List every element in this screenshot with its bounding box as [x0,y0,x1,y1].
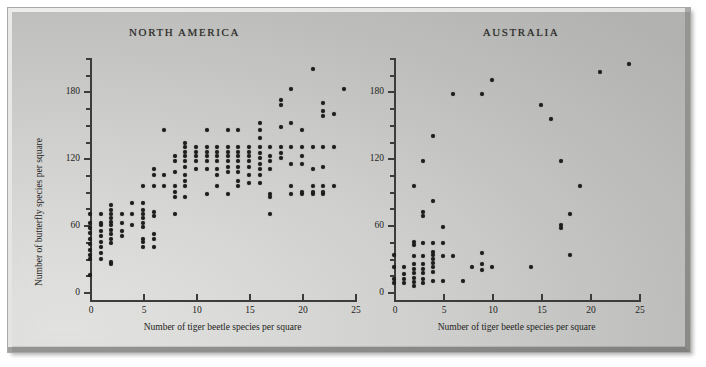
scatter-point [480,268,484,272]
scatter-point [109,220,113,224]
scatter-point [247,181,251,185]
scatter-point [490,265,494,269]
scatter-point [152,214,156,218]
scatter-point [152,184,156,188]
scatter-point [421,262,425,266]
scatter-point [236,128,240,132]
scatter-point [236,179,240,183]
scatter-point [258,156,262,160]
scatter-point [141,225,145,229]
scatter-point [236,170,240,174]
scatter-point [431,270,435,274]
figure-plate: NORTH AMERICA 0601201800510152025 Number… [8,8,690,352]
scatter-point [289,192,293,196]
scatter-point [289,87,293,91]
scatter-point [205,167,209,171]
scatter-point [268,145,272,149]
scatter-point [451,92,455,96]
y-tick-label: 180 [46,86,80,96]
y-tick-minor [390,242,394,244]
y-tick-minor [86,208,90,210]
scatter-point [421,277,425,281]
scatter-point [88,248,92,252]
scatter-point [109,228,113,232]
scatter-point [321,101,325,105]
scatter-point [226,150,230,154]
scatter-point [99,245,103,249]
scatter-point [321,114,325,118]
scatter-point [173,195,177,199]
scatter-point [568,253,572,257]
scatter-point [173,154,177,158]
scatter-point [421,254,425,258]
scatter-point [205,150,209,154]
y-tick-minor [390,259,394,261]
scatter-point [311,67,315,71]
scatter-point [332,184,336,188]
scatter-point [205,159,209,163]
scatter-point [268,167,272,171]
scatter-point [300,145,304,149]
scatter-point [130,201,134,205]
scatter-point [120,234,124,238]
scatter-point [183,184,187,188]
scatter-point [99,257,103,261]
scatter-point [321,145,325,149]
x-tick-label: 15 [245,305,255,315]
x-tick-label: 25 [635,305,645,315]
scatter-point [130,223,134,227]
scatter-point [236,184,240,188]
scatter-point [109,212,113,216]
scatter-point [99,240,103,244]
y-tick-minor [86,142,90,144]
scatter-point [311,145,315,149]
panel-title-north-america: NORTH AMERICA [12,26,357,38]
scatter-point [247,165,251,169]
scatter-point [173,190,177,194]
scatter-point [141,245,145,249]
scatter-point [431,261,435,265]
scatter-point [412,271,416,275]
scatter-point [412,284,416,288]
scatter-point [88,212,92,216]
scatter-point [412,184,416,188]
scatter-point [421,271,425,275]
x-tick-major [90,294,92,300]
y-tick-major [84,158,90,160]
scatter-point [183,154,187,158]
scatter-point [321,109,325,113]
y-tick-minor [390,108,394,110]
y-tick-minor [390,125,394,127]
scatter-point [268,159,272,163]
x-tick-major [443,294,445,300]
scatter-point [311,184,315,188]
scatter-point [539,103,543,107]
scatter-point [247,145,251,149]
y-tick-label: 180 [350,86,384,96]
scatter-point [451,254,455,258]
x-tick-label: 10 [192,305,202,315]
scatter-point [559,226,563,230]
scatter-point [141,208,145,212]
scatter-point [578,184,582,188]
scatter-point [279,156,283,160]
scatter-point [441,254,445,258]
scatter-point [141,184,145,188]
scatter-point [441,225,445,229]
scatter-point [480,251,484,255]
y-tick-label: 120 [350,153,384,163]
scatter-point [421,281,425,285]
scatter-point [279,103,283,107]
scatter-point [258,151,262,155]
x-tick-label: 10 [488,305,498,315]
scatter-point [215,150,219,154]
scatter-point [226,192,230,196]
scatter-point [141,237,145,241]
scatter-point [289,162,293,166]
x-tick-major [639,294,641,300]
panel-title-australia: AUSTRALIA [357,26,685,38]
scatter-point [183,179,187,183]
scatter-point [173,184,177,188]
scatter-point [99,229,103,233]
y-tick-label: 60 [350,220,384,230]
